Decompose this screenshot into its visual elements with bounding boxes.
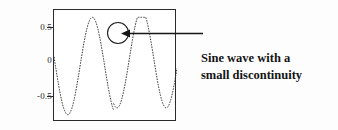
y-axis-tick-label-0: 0 <box>47 55 52 65</box>
plot-area <box>53 9 176 121</box>
sine-wave-curve-segment-1 <box>54 17 113 114</box>
figure-screenshot: 0.5 0 -0.5 Sine wave with a small discon… <box>0 0 338 130</box>
annotation-line-1: Sine wave with a <box>201 50 338 67</box>
annotation-callout-text: Sine wave with a small discontinuity <box>201 50 338 84</box>
annotation-line-2: small discontinuity <box>201 67 338 84</box>
sine-wave-plot <box>54 10 177 122</box>
sine-wave-curve-segment-2 <box>114 17 177 108</box>
